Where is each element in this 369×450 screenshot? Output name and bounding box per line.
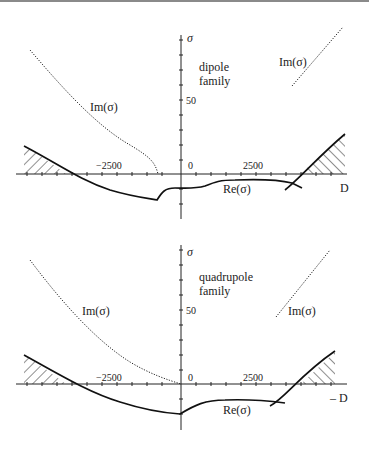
- re-sigma-label: Re(σ): [223, 403, 251, 417]
- x-tick-label-neg2500: −2500: [96, 160, 122, 171]
- y-axis-label: σ: [187, 31, 194, 45]
- quadrupole-chart: σ quadrupole family Im(σ) Im(σ) Re(σ) – …: [16, 245, 348, 430]
- family-label-line1: dipole: [199, 60, 229, 74]
- family-label-line1: quadrupole: [199, 270, 253, 284]
- family-label-line2: family: [199, 284, 230, 298]
- x-tick-label-neg2500: −2500: [96, 372, 122, 383]
- x-tick-label-2500: 2500: [243, 372, 263, 383]
- dipole-chart: σ dipole family Im(σ) Im(σ) Re(σ) D −250…: [16, 27, 349, 219]
- im-sigma-left-curve: [30, 260, 181, 384]
- figure: σ dipole family Im(σ) Im(σ) Re(σ) D −250…: [0, 0, 369, 450]
- x-axis-label: D: [340, 181, 349, 195]
- im-sigma-right-label: Im(σ): [288, 304, 316, 318]
- re-sigma-curve: [24, 146, 302, 200]
- im-sigma-left-label: Im(σ): [90, 100, 118, 114]
- y-axis-label: σ: [187, 245, 194, 259]
- x-tick-label-2500: 2500: [243, 160, 263, 171]
- x-axis-label: – D: [329, 391, 348, 405]
- x-tick-label-0: 0: [188, 372, 193, 383]
- im-sigma-left-label: Im(σ): [82, 304, 110, 318]
- re-sigma-label: Re(σ): [223, 182, 251, 196]
- y-tick-label-50: 50: [186, 95, 196, 106]
- x-tick-label-0: 0: [188, 160, 193, 171]
- family-label-line2: family: [199, 74, 230, 88]
- hatched-region-right: [301, 352, 335, 384]
- im-sigma-right-label: Im(σ): [279, 55, 307, 69]
- y-tick-label-50: 50: [186, 305, 196, 316]
